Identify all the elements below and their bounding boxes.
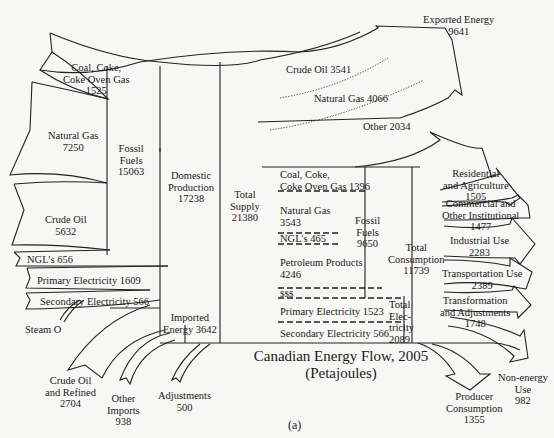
source-primary-electricity-label: Primary Electricity 1609 [37, 275, 141, 287]
domestic-production-label: Domestic Production 17238 [168, 170, 214, 205]
source-ngl-label: NGL's 656 [27, 254, 73, 266]
import-other-label: Other Imports 938 [107, 393, 140, 428]
consumption-natural-gas-label: Natural Gas 3543 [280, 205, 330, 228]
consumption-primary-electricity-label: Primary Electricity 1523 [280, 306, 384, 318]
export-natural-gas-label: Natural Gas 4066 [314, 93, 388, 105]
fossil-fuels-label: Fossil Fuels 15063 [118, 143, 144, 178]
supply-top-curve [50, 32, 360, 66]
import-crude-refined-label: Crude Oil and Refined 2704 2704 [45, 375, 96, 410]
export-crude-oil-label: Crude Oil 3541 [286, 64, 351, 76]
exported-energy-label: Exported Energy 9641 [423, 14, 494, 37]
end-use-commercial-label: Commercial and Other Institutional 1477 [442, 198, 519, 233]
source-secondary-electricity-label: Secondary Electricity 566 [40, 296, 149, 308]
consumption-petroleum-label: Petroleum Products 4246 [280, 257, 363, 280]
end-use-transportation-label: Transportation Use 2389 [442, 268, 522, 291]
source-coal-label: Coal, Coke, Coke Oven Gas 1525 [63, 62, 130, 97]
consumption-fossil-fuels-label: Fossil Fuels 9650 [355, 215, 380, 250]
imported-energy-label: Imported Energy 3642 [163, 312, 217, 335]
import-adjustments-label: Adjustments 500 [158, 390, 211, 413]
energy-flow-diagram: Coal, Coke, Coke Oven Gas 1525 Natural G… [0, 0, 554, 438]
end-use-transformation-label: Transformation and Adjustments 1748 [440, 295, 510, 330]
total-consumption-label: Total Consumption 11739 [388, 242, 445, 277]
source-crude-oil-label: Crude Oil 5632 [45, 214, 87, 237]
end-use-non-energy-label: Non-energy Use 982 [498, 372, 548, 407]
consumption-sss-label: $$$ [280, 289, 294, 301]
consumption-ngl-label: NGL's 465 [280, 233, 326, 245]
end-use-industrial-label: Industrial Use 2283 [450, 235, 509, 258]
other-imports-arrow [120, 333, 175, 384]
figure-caption: (a) [288, 418, 301, 433]
consumption-coal-label: Coal, Coke, Coke Oven Gas 1396 [280, 169, 370, 192]
consumption-secondary-electricity-label: Secondary Electricity 566 [280, 328, 389, 340]
total-electricity-label: Total Elec- tricity 2089 [389, 299, 414, 345]
crude-import-arrow [68, 305, 165, 378]
end-use-producer-label: Producer Consumption 1355 [446, 391, 503, 426]
total-supply-label: Total Supply 21380 [230, 189, 260, 224]
adjustments-arrow [172, 344, 210, 382]
export-other-label: Other 2034 [363, 121, 411, 133]
source-steam-label: Steam O [25, 324, 61, 336]
source-natural-gas-label: Natural Gas 7250 [48, 130, 98, 153]
figure-title: Canadian Energy Flow, 2005 (Petajoules) [226, 348, 456, 382]
